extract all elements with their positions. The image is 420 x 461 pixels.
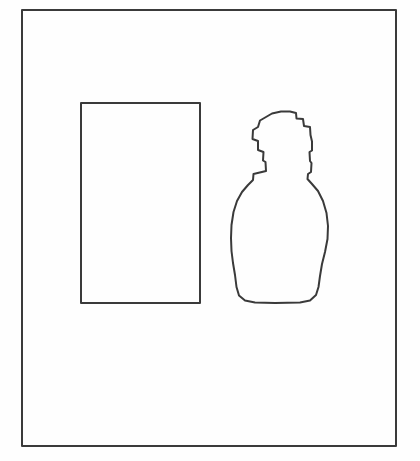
- line-art-figure: Line drawing: rectangle and vase silhoue…: [0, 0, 420, 461]
- figure-canvas: Line drawing: rectangle and vase silhoue…: [0, 0, 420, 461]
- figure-background: [0, 0, 420, 461]
